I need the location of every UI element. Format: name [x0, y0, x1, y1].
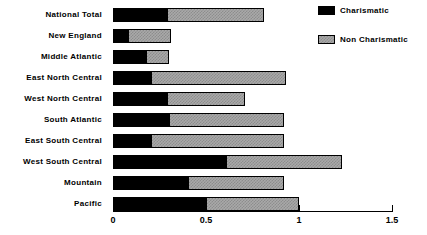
category-label: West North Central [0, 92, 108, 113]
stacked-bar[interactable] [113, 50, 169, 64]
bar-segment-non-charismatic [128, 30, 169, 42]
bar-segment-non-charismatic [188, 177, 284, 189]
legend-swatch-charismatic-icon [318, 6, 335, 15]
stacked-bar[interactable] [113, 155, 342, 169]
category-label: South Atlantic [0, 113, 108, 134]
bar-segment-non-charismatic [151, 135, 283, 147]
category-label: Mountain [0, 176, 108, 197]
bar-row [113, 134, 392, 155]
category-label: National Total [0, 8, 108, 29]
x-tick-mark [113, 205, 114, 211]
stacked-bar[interactable] [113, 71, 286, 85]
bar-segment-charismatic [114, 30, 128, 42]
bar-segment-charismatic [114, 72, 151, 84]
bar-segment-charismatic [114, 156, 226, 168]
bar-segment-non-charismatic [167, 93, 244, 105]
bar-row [113, 176, 392, 197]
legend-label: Non Charismatic [340, 35, 408, 44]
bar-segment-non-charismatic [169, 114, 283, 126]
x-tick-label: 0 [110, 215, 115, 225]
stacked-bar[interactable] [113, 176, 284, 190]
x-tick-mark [206, 205, 207, 211]
category-label: Middle Atlantic [0, 50, 108, 71]
bar-chart: National TotalNew EnglandMiddle Atlantic… [0, 0, 427, 235]
bar-segment-charismatic [114, 93, 167, 105]
bar-segment-non-charismatic [226, 156, 340, 168]
bar-row [113, 71, 392, 92]
x-tick-label: 1.5 [386, 215, 399, 225]
stacked-bar[interactable] [113, 8, 264, 22]
legend-item[interactable]: Non Charismatic [318, 35, 427, 44]
y-axis-category-labels: National TotalNew EnglandMiddle Atlantic… [0, 8, 108, 218]
bar-segment-non-charismatic [151, 72, 285, 84]
chart-legend: CharismaticNon Charismatic [318, 6, 427, 64]
bar-row [113, 92, 392, 113]
bar-segment-non-charismatic [167, 9, 262, 21]
x-tick-label: 1 [296, 215, 301, 225]
bar-segment-charismatic [114, 114, 169, 126]
legend-item[interactable]: Charismatic [318, 6, 427, 15]
stacked-bar[interactable] [113, 92, 245, 106]
bar-segment-non-charismatic [146, 51, 168, 63]
category-label: East South Central [0, 134, 108, 155]
stacked-bar[interactable] [113, 134, 284, 148]
category-label: New England [0, 29, 108, 50]
bar-row [113, 113, 392, 134]
bar-segment-charismatic [114, 177, 188, 189]
bar-segment-charismatic [114, 135, 151, 147]
legend-label: Charismatic [340, 6, 389, 15]
legend-swatch-non-charismatic-icon [318, 35, 335, 44]
category-label: West South Central [0, 155, 108, 176]
x-tick-label: 0.5 [200, 215, 213, 225]
stacked-bar[interactable] [113, 29, 171, 43]
bar-row [113, 155, 392, 176]
x-axis-ticks: 00.511.5 [0, 205, 427, 235]
x-tick-mark [299, 205, 300, 211]
category-label: East North Central [0, 71, 108, 92]
x-tick-mark [392, 205, 393, 211]
stacked-bar[interactable] [113, 113, 284, 127]
bar-segment-charismatic [114, 51, 146, 63]
bar-segment-charismatic [114, 9, 167, 21]
